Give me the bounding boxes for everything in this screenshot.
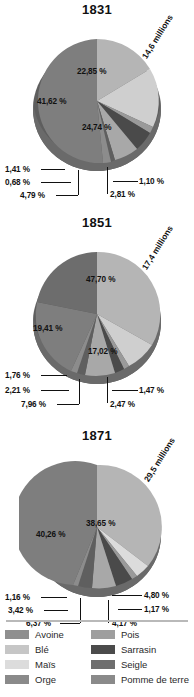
pct-big-left-1851: 19,41 % — [33, 324, 62, 333]
legend-swatch-avoine — [5, 630, 29, 639]
pct-r2-1851: 2,47 % — [110, 400, 135, 409]
legend-divider — [6, 620, 188, 622]
pie-chart-1871: 1871 38,65 % 40,26 % 29,5 millions 1,16 … — [0, 428, 194, 628]
leader-r2-1871 — [118, 609, 142, 610]
leader-r1-1831 — [113, 181, 138, 182]
pct-l1-1831: 1,41 % — [5, 165, 30, 174]
legend-item-pois[interactable]: Pois — [91, 629, 189, 640]
pct-l1-1871: 1,16 % — [5, 593, 30, 602]
legend-label-pois: Pois — [121, 629, 139, 640]
leader-l2-1831 — [41, 182, 71, 183]
legend-swatch-ble — [5, 645, 29, 654]
leader-l1-1871 — [41, 597, 67, 598]
legend-item-avoine[interactable]: Avoine — [5, 629, 89, 640]
legend-label-avoine: Avoine — [35, 629, 64, 640]
pct-l3-1851: 7,96 % — [21, 400, 46, 409]
leader-l3-1831 — [56, 195, 78, 196]
leader-r1-1851 — [112, 390, 138, 391]
legend: Avoine Pois Blé Sarrasin Maïs Seigle Org… — [0, 620, 194, 685]
pct-l2-1871: 3,42 % — [8, 606, 33, 615]
legend-swatch-pois — [91, 630, 115, 639]
pie-stage-1851: 47,70 % 17,02 % 19,41 % 17,4 millions 1,… — [0, 230, 194, 415]
leader-r1-1871 — [112, 595, 142, 596]
legend-swatch-seigle — [91, 660, 115, 669]
leader-r2-vert-1851 — [107, 377, 108, 403]
legend-label-orge: Orge — [35, 674, 56, 685]
legend-swatch-pomme-de-terre — [91, 675, 115, 684]
legend-label-mais: Maïs — [35, 659, 56, 670]
pct-big-left-1871: 40,26 % — [36, 530, 65, 539]
pct-big-right-bottom-1831: 24,74 % — [82, 123, 111, 132]
legend-label-sarrasin: Sarrasin — [121, 644, 156, 655]
leader-l3-1851 — [57, 404, 79, 405]
legend-swatch-mais — [5, 660, 29, 669]
legend-swatch-sarrasin — [91, 645, 115, 654]
leader-l1-1831 — [41, 169, 65, 170]
leader-l1-1851 — [41, 375, 67, 376]
pct-r1-1831: 1,10 % — [139, 177, 164, 186]
pct-l2-1831: 0,68 % — [5, 178, 30, 187]
pct-r1-1851: 1,47 % — [139, 386, 164, 395]
leader-l3-vert-1851 — [79, 379, 80, 404]
legend-item-sarrasin[interactable]: Sarrasin — [91, 644, 189, 655]
legend-label-pomme-de-terre: Pomme de terre — [121, 674, 189, 685]
pct-r1-1871: 4,80 % — [144, 591, 169, 600]
pie-chart-1851: 1851 47,70 % 17,02 % 19,41 % 17,4 millio… — [0, 215, 194, 415]
pie-stage-1871: 38,65 % 40,26 % 29,5 millions 1,16 % 3,4… — [0, 443, 194, 628]
pct-big-left-1831: 41,62 % — [37, 97, 66, 106]
pct-l3-1831: 4,79 % — [20, 191, 45, 200]
pct-big-right-top-1851: 47,70 % — [86, 275, 115, 284]
pie-stage-1831: 22,85 % 24,74 % 41,62 % 14,6 millions 1,… — [0, 17, 194, 202]
legend-grid: Avoine Pois Blé Sarrasin Maïs Seigle Org… — [0, 629, 194, 685]
legend-item-ble[interactable]: Blé — [5, 644, 89, 655]
leader-r2-vert-1831 — [107, 167, 108, 194]
legend-label-ble: Blé — [35, 644, 49, 655]
pct-l1-1851: 1,76 % — [5, 371, 30, 380]
pct-r2-1871: 1,17 % — [144, 605, 169, 614]
pie-chart-1831: 1831 22,85 % 24,74 % 41,62 % 14,6 millio… — [0, 2, 194, 202]
legend-item-pomme-de-terre[interactable]: Pomme de terre — [91, 674, 189, 685]
pct-big-right-top-1871: 38,65 % — [86, 519, 115, 528]
legend-label-seigle: Seigle — [121, 659, 147, 670]
leader-l3-vert-1831 — [78, 170, 79, 195]
legend-item-seigle[interactable]: Seigle — [91, 659, 189, 670]
legend-item-orge[interactable]: Orge — [5, 674, 89, 685]
leader-l2-1871 — [44, 610, 68, 611]
pct-r2-1831: 2,81 % — [110, 190, 135, 199]
pct-big-right-top-1831: 22,85 % — [77, 67, 106, 76]
pct-l2-1851: 2,21 % — [5, 386, 30, 395]
pct-big-right-bottom-1851: 17,02 % — [88, 347, 117, 356]
leader-l2-1851 — [41, 390, 69, 391]
legend-item-mais[interactable]: Maïs — [5, 659, 89, 670]
legend-swatch-orge — [5, 675, 29, 684]
